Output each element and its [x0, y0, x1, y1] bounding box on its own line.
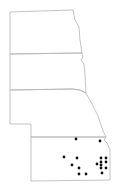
occurrence-dot	[76, 157, 79, 160]
occurrence-dot	[85, 173, 88, 176]
occurrence-dot	[71, 164, 74, 167]
occurrence-dot	[101, 172, 104, 175]
state-nebraska	[10, 89, 106, 137]
state-kansas	[31, 137, 110, 181]
distribution-map	[0, 0, 121, 190]
occurrence-dot	[100, 167, 103, 170]
occurrence-dot	[100, 157, 103, 160]
occurrence-dot	[105, 161, 108, 164]
state-south-dakota	[10, 53, 86, 93]
occurrence-dot	[63, 156, 66, 159]
occurrence-dot	[99, 140, 102, 143]
occurrence-dot	[78, 167, 81, 170]
occurrence-dot	[105, 167, 108, 170]
occurrence-dot	[78, 173, 81, 176]
occurrence-dot	[105, 157, 108, 160]
state-outlines	[10, 10, 110, 181]
state-north-dakota	[10, 10, 82, 54]
occurrence-dot	[75, 138, 78, 141]
occurrence-points	[63, 138, 108, 176]
occurrence-dot	[100, 164, 103, 167]
occurrence-dot	[100, 161, 103, 164]
occurrence-dot	[96, 163, 99, 166]
